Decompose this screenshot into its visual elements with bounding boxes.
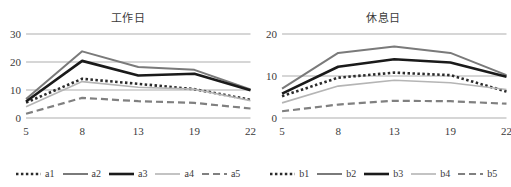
plot-svg-weekday: 010203058131922 [0, 28, 256, 140]
dual-line-chart-figure: 工作日 010203058131922 a1a2a3a4a5 休息日 01020… [0, 0, 511, 187]
legend-label-a1: a1 [45, 169, 54, 179]
legend-item-a1[interactable]: a1 [15, 169, 54, 179]
legend-label-a3: a3 [138, 169, 147, 179]
legend-swatch-b5 [457, 170, 484, 178]
legend-label-a2: a2 [92, 169, 101, 179]
x-axis-tick-label: 19 [189, 125, 201, 137]
plot-area-weekday: 010203058131922 [0, 28, 256, 140]
y-axis-tick-label: 0 [16, 112, 22, 124]
legend-item-b2[interactable]: b2 [316, 169, 356, 179]
legend-item-b3[interactable]: b3 [363, 169, 403, 179]
series-line-b5 [282, 101, 506, 112]
legend-label-b4: b4 [440, 169, 450, 179]
legend-item-b1[interactable]: b1 [269, 169, 309, 179]
legend-swatch-a3 [108, 170, 135, 178]
y-axis-tick-label: 20 [266, 28, 278, 40]
y-axis-tick-label: 10 [10, 84, 22, 96]
legend-label-b5: b5 [487, 169, 497, 179]
chart-title-restday: 休息日 [256, 9, 511, 25]
legend-label-b2: b2 [346, 169, 356, 179]
x-axis-tick-label: 13 [388, 125, 400, 137]
legend-restday: b1b2b3b4b5 [256, 169, 511, 179]
legend-swatch-b4 [410, 170, 437, 178]
plot-svg-restday: 0102058131922 [256, 28, 511, 140]
x-axis-tick-label: 8 [79, 125, 85, 137]
legend-item-a2[interactable]: a2 [62, 169, 101, 179]
legend-label-b1: b1 [299, 169, 309, 179]
legend-swatch-a4 [154, 170, 181, 178]
legend-item-b5[interactable]: b5 [457, 169, 497, 179]
legend-swatch-a5 [201, 170, 228, 178]
x-axis-tick-label: 22 [500, 125, 511, 137]
y-axis-tick-label: 30 [10, 28, 22, 40]
chart-panel-restday: 休息日 0102058131922 b1b2b3b4b5 [256, 0, 511, 187]
legend-swatch-b3 [363, 170, 390, 178]
legend-label-a4: a4 [184, 169, 193, 179]
chart-title-weekday: 工作日 [0, 9, 256, 25]
legend-label-b3: b3 [393, 169, 403, 179]
chart-panel-weekday: 工作日 010203058131922 a1a2a3a4a5 [0, 0, 256, 187]
x-axis-tick-label: 5 [279, 125, 285, 137]
legend-item-a3[interactable]: a3 [108, 169, 147, 179]
y-axis-tick-label: 20 [10, 56, 22, 68]
y-axis-tick-label: 0 [271, 112, 277, 124]
legend-swatch-b1 [269, 170, 296, 178]
legend-item-b4[interactable]: b4 [410, 169, 450, 179]
legend-label-a5: a5 [231, 169, 240, 179]
legend-item-a4[interactable]: a4 [154, 169, 193, 179]
x-axis-tick-label: 13 [133, 125, 145, 137]
legend-weekday: a1a2a3a4a5 [0, 169, 256, 179]
legend-item-a5[interactable]: a5 [201, 169, 240, 179]
x-axis-tick-label: 5 [23, 125, 29, 137]
x-axis-tick-label: 19 [444, 125, 456, 137]
x-axis-tick-label: 8 [335, 125, 341, 137]
series-line-a1 [26, 79, 250, 103]
series-line-a4 [26, 82, 250, 107]
series-line-b4 [282, 80, 506, 103]
series-line-b3 [282, 59, 506, 93]
x-axis-tick-label: 22 [245, 125, 256, 137]
y-axis-tick-label: 10 [266, 70, 278, 82]
legend-swatch-a1 [15, 170, 42, 178]
plot-area-restday: 0102058131922 [256, 28, 511, 140]
legend-swatch-b2 [316, 170, 343, 178]
series-line-a5 [26, 98, 250, 114]
legend-swatch-a2 [62, 170, 89, 178]
